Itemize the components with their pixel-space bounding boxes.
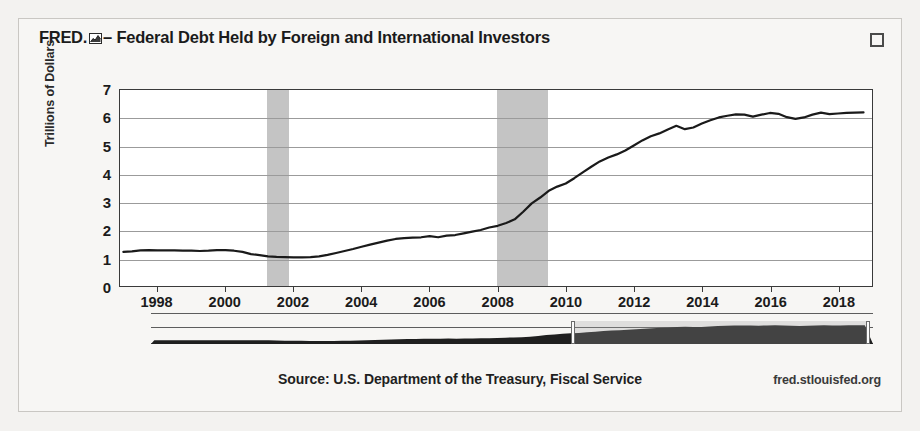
x-tick-2006: 2006 [413, 294, 445, 310]
expand-corner-bottom-right [877, 40, 884, 47]
x-tick-2002: 2002 [277, 294, 309, 310]
x-tick-2014: 2014 [686, 294, 718, 310]
x-tick-mark-2002 [293, 287, 294, 292]
x-tick-2008: 2008 [482, 294, 514, 310]
x-tick-mark-2016 [771, 287, 772, 292]
x-tick-mark-1998 [157, 287, 158, 292]
y-tick-3: 3 [103, 195, 111, 210]
fred-chart-logo-icon [89, 33, 102, 44]
x-tick-mark-2014 [702, 287, 703, 292]
x-tick-2016: 2016 [755, 294, 787, 310]
range-selector[interactable] [151, 311, 873, 349]
x-tick-mark-2000 [225, 287, 226, 292]
range-selector-right-handle[interactable] [866, 321, 870, 344]
y-tick-4: 4 [103, 166, 111, 181]
x-tick-mark-2012 [634, 287, 635, 292]
y-axis-tick-labels: 76543210 [85, 89, 111, 287]
range-selector-selection[interactable] [573, 321, 868, 344]
title-separator: – [103, 28, 112, 46]
range-selector-left-handle[interactable] [571, 321, 575, 344]
plot-area[interactable] [119, 89, 873, 287]
x-tick-2004: 2004 [345, 294, 377, 310]
y-tick-0: 0 [103, 280, 111, 295]
y-tick-5: 5 [103, 138, 111, 153]
chart-region: Trillions of Dollars 76543210 1998200020… [19, 59, 903, 329]
series-line-0 [123, 112, 863, 257]
card-footer: Source: U.S. Department of the Treasury,… [19, 371, 901, 395]
expand-corner-top-left [870, 33, 877, 40]
expand-corner-top-right [877, 33, 884, 40]
y-tick-7: 7 [103, 82, 111, 97]
x-tick-mark-2018 [839, 287, 840, 292]
series-layer [120, 90, 872, 286]
fullscreen-expand-icon[interactable] [870, 33, 884, 47]
chart-title-text: Federal Debt Held by Foreign and Interna… [116, 28, 549, 46]
x-tick-mark-2006 [429, 287, 430, 292]
page-title: FRED.– Federal Debt Held by Foreign and … [39, 28, 550, 47]
y-tick-6: 6 [103, 110, 111, 125]
source-attribution: Source: U.S. Department of the Treasury,… [19, 371, 901, 387]
x-tick-2000: 2000 [209, 294, 241, 310]
x-tick-2018: 2018 [823, 294, 855, 310]
fred-chart-card: FRED.– Federal Debt Held by Foreign and … [18, 18, 902, 412]
expand-corner-bottom-left [870, 40, 877, 47]
screenshot-root: FRED.– Federal Debt Held by Foreign and … [0, 0, 920, 431]
fred-url-label: fred.stlouisfed.org [773, 373, 881, 387]
x-tick-2010: 2010 [550, 294, 582, 310]
x-tick-mark-2004 [361, 287, 362, 292]
y-tick-1: 1 [103, 251, 111, 266]
x-tick-1998: 1998 [140, 294, 172, 310]
card-header: FRED.– Federal Debt Held by Foreign and … [19, 19, 901, 59]
x-tick-mark-2010 [566, 287, 567, 292]
y-axis-title: Trillions of Dollars [43, 129, 57, 147]
range-selector-top-rule [151, 313, 873, 314]
y-tick-2: 2 [103, 223, 111, 238]
x-tick-mark-2008 [498, 287, 499, 292]
x-tick-2012: 2012 [618, 294, 650, 310]
